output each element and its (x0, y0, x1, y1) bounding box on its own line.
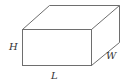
width-label: W (106, 51, 116, 61)
box-diagram (0, 0, 125, 84)
height-label: H (9, 42, 18, 52)
top-face-edges (23, 6, 120, 30)
length-label: L (51, 71, 58, 81)
front-face (23, 30, 92, 66)
